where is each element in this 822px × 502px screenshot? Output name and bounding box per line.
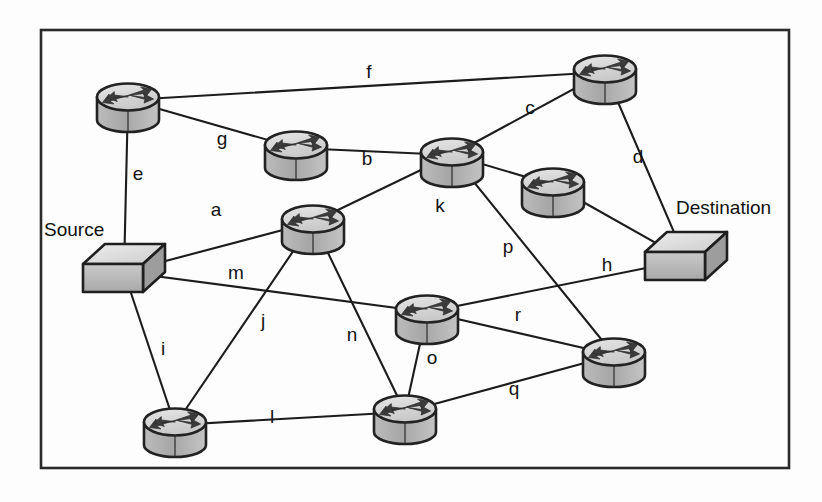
router-node-r10 (144, 409, 206, 458)
link-label-m: m (228, 262, 244, 283)
link-label-n: n (347, 324, 358, 345)
router-node-r1 (97, 84, 159, 133)
network-topology-diagram: abcdefghijklmnopqr SourceDestination (0, 0, 822, 502)
router-node-r9 (374, 396, 436, 445)
router-node-r4 (574, 56, 636, 105)
link-label-h: h (602, 254, 613, 275)
link-label-p: p (503, 236, 514, 257)
link-l (175, 412, 405, 425)
router-node-r3 (421, 139, 483, 188)
link-label-j: j (260, 310, 265, 331)
router-node-r2 (265, 132, 327, 181)
link-label-i: i (161, 338, 165, 359)
link-label-e: e (133, 163, 144, 184)
host-node-source (83, 244, 165, 292)
link-i (124, 272, 175, 425)
endpoint-label-destination: Destination (676, 197, 771, 218)
router-node-r8 (583, 339, 645, 388)
link-label-c: c (525, 97, 535, 118)
router-node-r6 (522, 169, 584, 218)
topology-canvas: abcdefghijklmnopqr SourceDestination (0, 0, 822, 502)
link-label-r: r (515, 304, 522, 325)
link-labels-layer: abcdefghijklmnopqr (133, 61, 644, 427)
link-label-a: a (211, 199, 222, 220)
link-label-g: g (217, 128, 228, 149)
link-label-f: f (366, 61, 372, 82)
link-label-q: q (509, 378, 520, 399)
endpoint-label-source: Source (44, 219, 104, 240)
link-label-k: k (435, 195, 445, 216)
router-node-r5 (282, 206, 344, 255)
link-label-l: l (270, 406, 274, 427)
router-node-r7 (396, 296, 458, 345)
link-label-b: b (362, 148, 373, 169)
link-label-d: d (633, 146, 644, 167)
host-node-destination (645, 232, 727, 280)
link-label-o: o (427, 347, 438, 368)
